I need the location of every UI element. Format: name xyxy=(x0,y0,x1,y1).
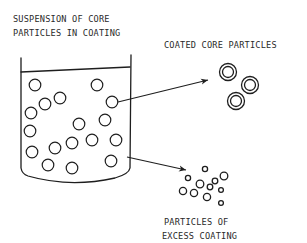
excess-coating-particles xyxy=(179,166,227,205)
excess-label-line2: EXCESS COATING xyxy=(162,231,237,241)
arrow-to-excess-coating xyxy=(127,157,186,170)
core-particles xyxy=(24,79,122,174)
coated-particles-label: COATED CORE PARTICLES xyxy=(164,40,277,50)
suspension-label-line1: SUSPENSION OF CORE xyxy=(13,14,110,24)
suspension-label-line2: PARTICLES IN COATING xyxy=(13,28,120,38)
diagram-canvas: SUSPENSION OF CORE PARTICLES IN COATING … xyxy=(0,0,307,243)
liquid-surface-line xyxy=(21,67,130,72)
coated-core-particles xyxy=(220,64,259,110)
excess-label-line1: PARTICLES OF xyxy=(164,217,229,227)
arrow-to-coated-particles xyxy=(118,80,208,102)
